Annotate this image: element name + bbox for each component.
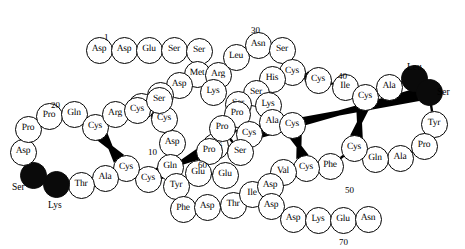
residue-62-phe: Phe <box>170 196 197 223</box>
residue-4-ser: Ser <box>161 37 188 64</box>
residue-39-cys: Cys <box>305 67 332 94</box>
position-number-10: 10 <box>148 148 157 157</box>
residue-63-asp: Asp <box>194 194 221 221</box>
residue-2-asp: Asp <box>111 37 138 64</box>
residue-41-cys: Cys <box>352 84 379 111</box>
protein-structure-diagram: AspAspGluSerSerMetAspSerCysCysAspGlnCysC… <box>0 0 465 249</box>
residue-label-43-leu: Leu <box>407 63 422 73</box>
residue-19-asp: Asp <box>10 139 37 166</box>
residue-17-lys <box>43 171 70 198</box>
residue-69-lys: Lys <box>305 207 332 234</box>
residue-30-asn: Asn <box>245 32 272 59</box>
residue-49-cys: Cys <box>341 135 368 162</box>
residue-3-glu: Glu <box>136 37 163 64</box>
residue-57-ser: Ser <box>227 139 254 166</box>
residue-60-glu: Glu <box>212 162 239 189</box>
residue-71-asn: Asn <box>355 206 382 233</box>
residue-label-44-ser: Ser <box>437 88 450 98</box>
residue-26-ser: Ser <box>146 87 173 114</box>
position-number-30: 30 <box>251 26 260 35</box>
residue-51-cys: Cys <box>293 155 320 182</box>
residue-15-ala: Ala <box>92 165 119 192</box>
residue-70-glu: Glu <box>330 207 357 234</box>
position-number-50: 50 <box>345 186 354 195</box>
position-number-40: 40 <box>338 72 347 81</box>
position-number-20: 20 <box>51 101 60 110</box>
residue-28-lys: Lys <box>200 79 227 106</box>
residue-47-ala: Ala <box>387 145 414 172</box>
residue-46-pro: Pro <box>411 133 438 160</box>
position-number-1: 1 <box>104 33 109 42</box>
residue-label-18-ser: Ser <box>12 183 25 193</box>
residue-label-17-lys: Lys <box>48 201 62 211</box>
residue-38-cys: Cys <box>279 112 306 139</box>
position-number-70: 70 <box>339 238 348 247</box>
position-number-60: 60 <box>198 161 207 170</box>
residue-11-asp: Asp <box>159 130 186 157</box>
residue-50-phe: Phe <box>317 153 344 180</box>
residue-16-thr: Thr <box>68 172 95 199</box>
residue-42-ala: Ala <box>376 74 403 101</box>
residue-68-asp: Asp <box>280 206 307 233</box>
